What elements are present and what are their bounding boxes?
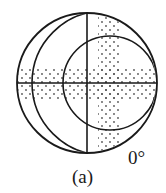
vertical-dotted-band [98,12,121,157]
figure-caption: (a) [72,166,93,188]
angle-label: 0° [128,147,145,169]
